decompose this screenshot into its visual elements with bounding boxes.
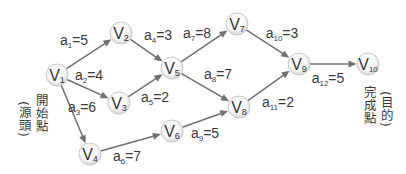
source-note-label: (源頭) [17, 101, 30, 137]
edge-weight-label: a6=7 [113, 148, 141, 166]
activity-network-diagram: a1=5a2=4a3=6a4=3a5=2a6=7a7=8a8=7a9=5a10=… [0, 0, 406, 174]
edge-weight-label: a5=2 [141, 89, 169, 107]
node-v9: V9 [288, 53, 310, 75]
arrowhead-icon [281, 71, 290, 79]
edge-weight-label: a3=6 [68, 99, 96, 117]
nodes-layer: V1V2V3V4V5V6V7V8V9V10 [46, 13, 379, 165]
edge-weight-label: a9=5 [191, 125, 219, 143]
node-v7: V7 [226, 13, 248, 35]
end-point-label: 完成點 [362, 86, 375, 125]
node-v5: V5 [161, 57, 183, 79]
arrowhead-icon [154, 54, 163, 61]
edge-weight-label: a4=3 [144, 27, 172, 45]
node-v8: V8 [228, 96, 250, 118]
node-v6: V6 [161, 120, 183, 142]
node-v10: V10 [357, 53, 379, 75]
edge-weight-label: a2=4 [75, 67, 103, 85]
edge-weight-label: a1=5 [60, 32, 88, 50]
destination-note-label: (目的) [379, 91, 392, 127]
arrowhead-icon [281, 50, 290, 57]
node-v3: V3 [108, 92, 130, 114]
arrowhead-icon [349, 61, 357, 68]
arrowhead-icon [154, 74, 163, 81]
node-v4: V4 [79, 143, 101, 165]
arrowhead-icon [219, 30, 228, 37]
edge-weight-label: a8=7 [204, 66, 232, 84]
edge-weight-label: a11=2 [262, 94, 294, 112]
arrowhead-icon [103, 39, 112, 46]
node-v2: V2 [110, 22, 132, 44]
diagram-canvas: a1=5a2=4a3=6a4=3a5=2a6=7a7=8a8=7a9=5a10=… [0, 0, 406, 174]
arrowhead-icon [219, 110, 228, 117]
edge-weight-label: a7=8 [183, 25, 211, 43]
node-v1: V1 [46, 64, 68, 86]
start-point-label: 開始點 [34, 94, 47, 133]
edge-weight-label: a12=5 [312, 70, 345, 88]
edge-v9-to-v10 [310, 61, 357, 68]
edge-weight-label: a10=3 [266, 25, 299, 43]
arrowhead-icon [152, 133, 161, 140]
